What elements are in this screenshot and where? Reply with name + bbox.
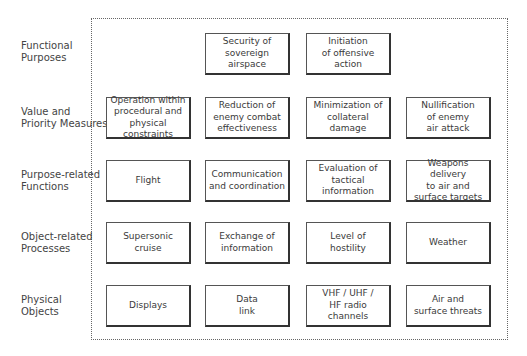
node-evaluation-tactical-info: Evaluation of tactical information	[306, 160, 391, 202]
level-label-physical-objects: Physical Objects	[21, 294, 62, 318]
node-exchange-information: Exchange of information	[205, 222, 290, 264]
node-data-link: Data link	[205, 285, 290, 327]
node-radio-channels: VHF / UHF / HF radio channels	[306, 285, 391, 327]
node-operation-within-constraints: Operation within procedural and physical…	[106, 97, 191, 139]
node-communication-coordination: Communication and coordination	[205, 160, 290, 202]
node-air-surface-threats: Air and surface threats	[406, 285, 491, 327]
level-label-purpose-functions: Purpose-related Functions	[21, 169, 100, 193]
node-security-sovereign-airspace: Security of sovereign airspace	[205, 33, 290, 75]
node-supersonic-cruise: Supersonic cruise	[106, 222, 191, 264]
node-minimization-collateral-damage: Minimization of collateral damage	[306, 97, 391, 139]
node-level-hostility: Level of hostility	[306, 222, 391, 264]
level-label-functional-purposes: Functional Purposes	[21, 40, 72, 64]
node-weather: Weather	[406, 222, 491, 264]
node-initiation-offensive-action: Initiation of offensive action	[306, 33, 391, 75]
level-label-object-processes: Object-related Processes	[21, 231, 93, 255]
node-flight: Flight	[106, 160, 191, 202]
node-reduction-enemy-effectiveness: Reduction of enemy combat effectiveness	[205, 97, 290, 139]
node-nullification-air-attack: Nullification of enemy air attack	[406, 97, 491, 139]
level-label-value-priority: Value and Priority Measures	[21, 106, 107, 130]
node-weapons-delivery: Weapons delivery to air and surface targ…	[406, 160, 491, 202]
node-displays: Displays	[106, 285, 191, 327]
